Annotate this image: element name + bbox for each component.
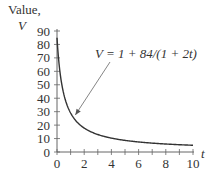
annotation-arrow-line <box>75 62 110 115</box>
x-tick-label: 2 <box>81 156 88 171</box>
chart: Value, V 01020304050607080900246810 t V … <box>0 0 214 177</box>
y-tick-label: 10 <box>37 131 50 146</box>
y-tick-label: 80 <box>37 37 50 52</box>
y-tick-label: 40 <box>37 91 50 106</box>
x-tick-label: 0 <box>54 156 61 171</box>
y-tick-label: 20 <box>37 118 50 133</box>
y-tick-label: 70 <box>37 50 50 65</box>
y-tick-label: 30 <box>37 104 50 119</box>
x-tick-label: 10 <box>187 156 200 171</box>
y-tick-label: 60 <box>37 64 50 79</box>
y-axis-label-line2: V <box>18 18 28 33</box>
y-tick-label: 0 <box>44 145 51 160</box>
annotation-label: V = 1 + 84/(1 + 2t) <box>95 46 197 61</box>
annotation-arrowhead <box>75 109 80 115</box>
x-tick-label: 8 <box>163 156 170 171</box>
y-tick-label: 90 <box>37 24 50 39</box>
x-tick-label: 6 <box>135 156 142 171</box>
x-tick-label: 4 <box>108 156 115 171</box>
y-tick-label: 50 <box>37 77 50 92</box>
x-axis-label: t <box>201 146 205 161</box>
y-axis-label-line1: Value, <box>8 2 41 17</box>
annotation-arrow-group <box>75 62 110 115</box>
